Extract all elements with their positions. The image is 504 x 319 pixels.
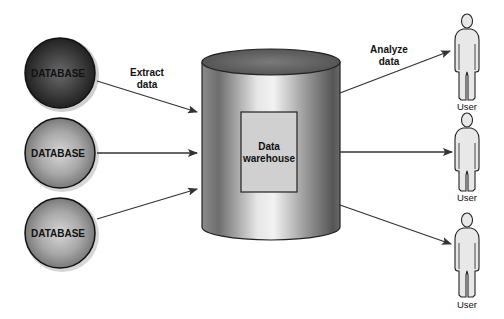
database-source-2: DATABASE	[25, 118, 99, 192]
database-label: DATABASE	[31, 68, 85, 79]
database-label: DATABASE	[31, 228, 85, 239]
user-figure-2: User	[455, 113, 479, 203]
data-warehouse-cylinder: Data warehouse	[202, 49, 340, 240]
database-source-1: DATABASE	[25, 38, 99, 112]
data-warehouse-diagram: DATABASE DATABASE DATABASE Extract data …	[0, 0, 504, 319]
user-icon	[455, 213, 479, 297]
database-source-3: DATABASE	[25, 198, 99, 272]
warehouse-label-line1: Data	[258, 141, 280, 152]
arrow-extract-3	[97, 189, 197, 219]
arrow-analyze-3	[340, 205, 451, 244]
user-label: User	[457, 192, 477, 203]
extract-label-line2: data	[137, 79, 158, 90]
warehouse-box	[241, 112, 297, 192]
user-icon	[455, 113, 479, 191]
analyze-label-line1: Analyze	[370, 44, 408, 55]
analyze-label-line2: data	[379, 56, 400, 67]
extract-label-line1: Extract	[130, 67, 165, 78]
analyze-arrows	[340, 51, 452, 244]
user-figure-3: User	[455, 213, 479, 310]
extract-arrows	[97, 81, 197, 219]
user-figure-1: User	[455, 14, 479, 112]
user-label: User	[457, 101, 477, 112]
user-label: User	[457, 299, 477, 310]
warehouse-label-line2: warehouse	[242, 153, 296, 164]
database-label: DATABASE	[31, 148, 85, 159]
user-icon	[455, 14, 479, 100]
